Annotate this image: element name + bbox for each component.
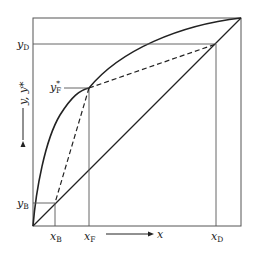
label-xF: xF	[84, 230, 95, 244]
label-xD: xD	[211, 230, 223, 244]
operating-line-stripping	[55, 88, 89, 203]
operating-line-rectifying	[89, 44, 216, 88]
label-yF-star: y*F	[49, 79, 61, 95]
x-axis-label: x	[157, 228, 164, 241]
y-axis-label: y, y*	[17, 81, 30, 106]
equilibrium-diagram: yD y*F yB xB xF xD x y, y*	[0, 0, 256, 254]
label-yB: yB	[16, 197, 29, 211]
x-axis-arrow-icon	[148, 232, 154, 237]
label-xB: xB	[50, 230, 62, 244]
label-yD: yD	[16, 38, 29, 52]
y-axis-arrow-icon	[21, 141, 26, 147]
